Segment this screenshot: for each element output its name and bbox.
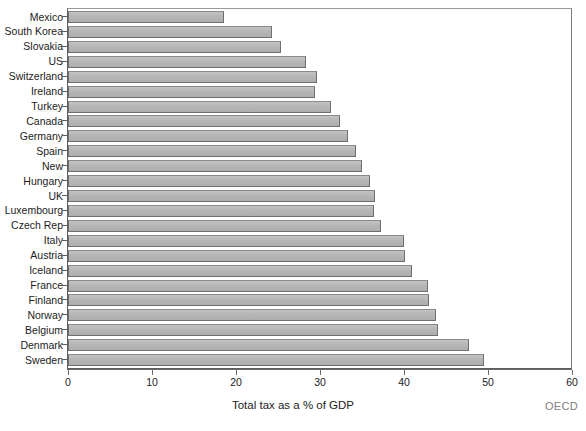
x-axis-tick-label: 20 xyxy=(216,376,256,388)
bar-rect xyxy=(68,294,429,306)
bar-rect xyxy=(68,354,484,366)
bar-germany xyxy=(68,130,348,142)
y-axis-tick xyxy=(62,150,67,151)
source-label: OECD xyxy=(545,400,578,412)
bar-rect xyxy=(68,175,370,187)
bar-rect xyxy=(68,205,374,217)
y-axis-label: Austria xyxy=(0,249,63,261)
y-axis-tick xyxy=(62,76,67,77)
y-axis-label: South Korea xyxy=(0,25,63,37)
bar-chart: MexicoSouth KoreaSlovakiaUSSwitzerlandIr… xyxy=(0,0,586,431)
bar-iceland xyxy=(68,265,412,277)
y-axis-tick xyxy=(62,180,67,181)
chart-title xyxy=(68,0,548,3)
bar-rect xyxy=(68,280,428,292)
bar-uk xyxy=(68,190,375,202)
y-axis-label: Ireland xyxy=(0,85,63,97)
x-axis-tick xyxy=(572,370,573,375)
y-axis-tick xyxy=(62,314,67,315)
y-axis-label: Czech Rep xyxy=(0,219,63,231)
y-axis-tick xyxy=(62,91,67,92)
y-axis-tick xyxy=(62,359,67,360)
bar-rect xyxy=(68,309,436,321)
y-axis-label: Norway xyxy=(0,309,63,321)
bar-rect xyxy=(68,265,412,277)
y-axis-label: Luxembourg xyxy=(0,204,63,216)
bar-south-korea xyxy=(68,26,272,38)
bar-new xyxy=(68,160,362,172)
bar-rect xyxy=(68,130,348,142)
y-axis-tick xyxy=(62,16,67,17)
x-axis-tick-label: 0 xyxy=(48,376,88,388)
bar-hungary xyxy=(68,175,370,187)
x-axis-tick xyxy=(152,370,153,375)
x-axis-title: Total tax as a % of GDP xyxy=(0,399,586,411)
y-axis-tick xyxy=(62,225,67,226)
y-axis-label: Turkey xyxy=(0,100,63,112)
bar-turkey xyxy=(68,101,331,113)
y-axis-label: Germany xyxy=(0,130,63,142)
bar-belgium xyxy=(68,324,438,336)
x-axis-tick xyxy=(320,370,321,375)
bar-sweden xyxy=(68,354,484,366)
x-axis-tick xyxy=(488,370,489,375)
bar-rect xyxy=(68,324,438,336)
x-axis-tick xyxy=(68,370,69,375)
y-axis-tick xyxy=(62,31,67,32)
y-axis-label: Slovakia xyxy=(0,40,63,52)
bar-rect xyxy=(68,86,315,98)
bar-czech-rep xyxy=(68,220,381,232)
bar-canada xyxy=(68,115,340,127)
bar-austria xyxy=(68,250,405,262)
bar-rect xyxy=(68,11,224,23)
y-axis-tick xyxy=(62,46,67,47)
bar-denmark xyxy=(68,339,469,351)
bar-rect xyxy=(68,145,356,157)
bar-rect xyxy=(68,339,469,351)
bar-slovakia xyxy=(68,41,281,53)
y-axis-tick xyxy=(62,135,67,136)
y-axis-label: Belgium xyxy=(0,324,63,336)
y-axis-label: Mexico xyxy=(0,11,63,23)
y-axis-label: US xyxy=(0,55,63,67)
bar-spain xyxy=(68,145,356,157)
y-axis-tick xyxy=(62,329,67,330)
y-axis-tick xyxy=(62,106,67,107)
bar-rect xyxy=(68,190,375,202)
x-axis-tick xyxy=(236,370,237,375)
bar-finland xyxy=(68,294,429,306)
bar-luxembourg xyxy=(68,205,374,217)
y-axis-tick xyxy=(62,270,67,271)
x-axis-tick xyxy=(404,370,405,375)
y-axis-label: Canada xyxy=(0,115,63,127)
bar-france xyxy=(68,280,428,292)
bar-rect xyxy=(68,235,404,247)
x-axis-tick-label: 10 xyxy=(132,376,172,388)
bar-rect xyxy=(68,26,272,38)
y-axis-tick xyxy=(62,299,67,300)
y-axis-label: Italy xyxy=(0,234,63,246)
bar-rect xyxy=(68,160,362,172)
y-axis-label: Hungary xyxy=(0,175,63,187)
x-axis-tick-label: 30 xyxy=(300,376,340,388)
y-axis-tick xyxy=(62,195,67,196)
bar-italy xyxy=(68,235,404,247)
y-axis-tick xyxy=(62,210,67,211)
y-axis-tick xyxy=(62,285,67,286)
bar-mexico xyxy=(68,11,224,23)
bar-rect xyxy=(68,41,281,53)
y-axis-tick xyxy=(62,120,67,121)
y-axis-label: France xyxy=(0,279,63,291)
y-axis-tick xyxy=(62,165,67,166)
bar-us xyxy=(68,56,306,68)
y-axis-label: Spain xyxy=(0,145,63,157)
y-axis-tick xyxy=(62,61,67,62)
bar-rect xyxy=(68,101,331,113)
x-axis-tick-label: 40 xyxy=(384,376,424,388)
y-axis-label: Finland xyxy=(0,294,63,306)
y-axis-label: Iceland xyxy=(0,264,63,276)
y-axis-tick xyxy=(62,255,67,256)
y-axis-label: New xyxy=(0,160,63,172)
y-axis-label: Sweden xyxy=(0,354,63,366)
y-axis-tick xyxy=(62,240,67,241)
